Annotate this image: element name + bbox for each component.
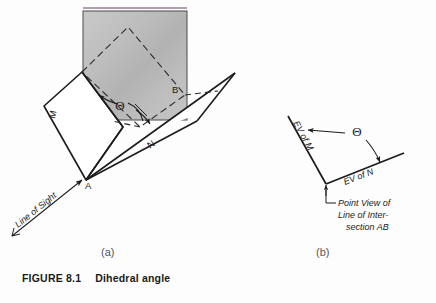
panel-a-vertex-b-label: B — [172, 84, 178, 95]
theta-leader-to-ev-n — [366, 140, 380, 162]
panel-a-vertex-a-label: A — [85, 180, 92, 191]
point-view-note-line-3: section AB — [346, 222, 389, 232]
figure-svg: Θ M N A B Line of Sight Θ EV of M — [0, 0, 436, 303]
panel-b-group: Θ EV of M EV of N Point View of Line of … — [288, 116, 404, 232]
panel-b-letter: (b) — [316, 246, 329, 258]
figure-caption-label: FIGURE 8.1 — [22, 272, 81, 284]
line-of-sight-arrow — [12, 180, 82, 236]
theta-leader-to-ev-m — [308, 130, 345, 133]
figure-container: Θ M N A B Line of Sight Θ EV of M — [0, 0, 436, 303]
panel-a-group: Θ M N A B Line of Sight — [12, 8, 235, 236]
panel-a-angle-label: Θ — [115, 98, 124, 113]
line-of-sight-label: Line of Sight — [13, 190, 59, 230]
figure-caption: FIGURE 8.1Dihedral angle — [22, 272, 170, 284]
panel-a-letter: (a) — [101, 246, 114, 258]
point-view-note-line-1: Point View of — [338, 198, 392, 208]
ev-of-n-label: EV of N — [342, 166, 375, 187]
figure-caption-text: Dihedral angle — [95, 272, 170, 284]
ev-of-m-label: EV of M — [291, 119, 316, 152]
point-view-leader-line — [326, 190, 336, 203]
panel-b-angle-label: Θ — [352, 124, 361, 139]
point-view-note-line-2: Line of Inter- — [338, 210, 388, 220]
